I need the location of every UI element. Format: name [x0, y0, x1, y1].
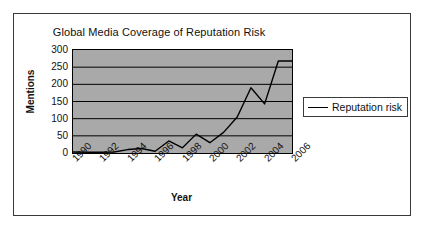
y-tick-label: 0	[62, 147, 68, 158]
chart-title: Global Media Coverage of Reputation Risk	[14, 26, 304, 38]
y-tick-label: 200	[51, 78, 68, 89]
legend-label-reputation-risk: Reputation risk	[332, 101, 402, 113]
chart-container: Global Media Coverage of Reputation Risk…	[13, 13, 411, 216]
y-tick-label: 150	[51, 95, 68, 106]
y-tick-label: 50	[57, 129, 68, 140]
y-tick-label: 300	[51, 44, 68, 55]
y-tick-label: 100	[51, 112, 68, 123]
y-axis-tick-labels: 300250200150100500	[32, 49, 68, 152]
x-axis-title: Year	[72, 192, 291, 203]
legend-line-swatch-icon	[308, 107, 328, 108]
series-reputation-risk	[73, 50, 292, 153]
chart-legend: Reputation risk	[303, 97, 408, 117]
y-tick-label: 250	[51, 61, 68, 72]
x-axis-tick-labels: 199019921994199619982000200220042006	[72, 154, 298, 194]
plot-area	[72, 49, 293, 154]
